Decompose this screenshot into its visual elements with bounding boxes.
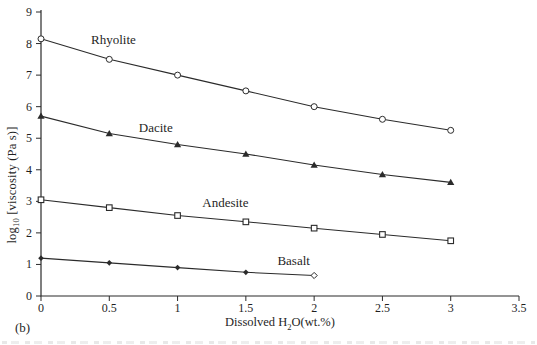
y-axis-tick-label: 9	[26, 5, 32, 19]
series-marker-rhyolite	[311, 104, 317, 110]
x-axis-tick-label: 2.5	[375, 301, 390, 315]
series-marker-andesite	[380, 232, 386, 238]
y-axis-title-pre: log	[5, 227, 19, 244]
y-axis-tick-label: 6	[26, 100, 32, 114]
series-marker-rhyolite	[379, 116, 385, 122]
series-marker-andesite	[311, 225, 317, 231]
x-axis-tick-label: 3	[448, 301, 454, 315]
series-marker-rhyolite	[38, 36, 44, 42]
y-axis-title-sub: 10	[11, 218, 21, 227]
series-label-basalt: Basalt	[277, 253, 310, 268]
y-axis-tick-label: 4	[26, 163, 32, 177]
series-line-dacite	[41, 116, 451, 182]
series-marker-rhyolite	[106, 56, 112, 62]
x-axis-title-pre: Dissolved H	[225, 315, 287, 329]
x-axis-title: Dissolved H2O(wt.%)	[170, 315, 390, 332]
y-axis-tick-label: 2	[26, 226, 32, 240]
y-axis-tick-label: 0	[26, 289, 32, 303]
x-axis-tick-label: 0.5	[102, 301, 117, 315]
series-marker-basalt	[311, 272, 317, 278]
series-label-dacite: Dacite	[139, 120, 173, 135]
x-axis-title-post: O(wt.%)	[292, 315, 335, 329]
x-axis-tick-label: 3.5	[512, 301, 527, 315]
series-line-rhyolite	[41, 39, 451, 131]
y-axis-tick-label: 1	[26, 257, 32, 271]
series-marker-andesite	[448, 238, 454, 244]
series-marker-rhyolite	[448, 127, 454, 133]
y-axis-tick-label: 8	[26, 37, 32, 51]
x-axis-tick-label: 0	[38, 301, 44, 315]
series-marker-rhyolite	[243, 88, 249, 94]
x-axis-tick-label: 1	[175, 301, 181, 315]
series-label-rhyolite: Rhyolite	[91, 32, 136, 47]
y-axis-tick-label: 7	[26, 68, 32, 82]
series-marker-dacite	[37, 113, 44, 119]
panel-label: (b)	[15, 320, 30, 336]
viscosity-chart-figure: 012345678900.511.522.533.5RhyoliteDacite…	[0, 0, 537, 345]
x-axis-tick-label: 1.5	[238, 301, 253, 315]
series-marker-andesite	[243, 219, 249, 225]
series-marker-andesite	[175, 213, 181, 219]
x-axis-tick-label: 2	[311, 301, 317, 315]
chart-canvas: 012345678900.511.522.533.5RhyoliteDacite…	[0, 0, 537, 345]
series-marker-rhyolite	[175, 72, 181, 78]
series-marker-basalt	[38, 255, 44, 261]
y-axis-title: log10 [viscosity (Pa s)]	[5, 126, 22, 243]
series-marker-basalt	[175, 265, 181, 271]
y-axis-title-post: [viscosity (Pa s)]	[5, 126, 19, 218]
cutoff-caption-remnant	[2, 341, 535, 344]
series-marker-basalt	[243, 270, 249, 276]
series-marker-basalt	[106, 260, 112, 266]
series-marker-andesite	[106, 205, 112, 211]
y-axis-tick-label: 3	[26, 194, 32, 208]
series-label-andesite: Andesite	[202, 195, 248, 210]
series-marker-andesite	[38, 197, 44, 203]
y-axis-tick-label: 5	[26, 131, 32, 145]
